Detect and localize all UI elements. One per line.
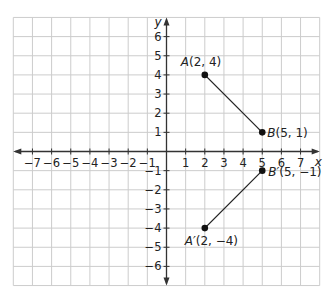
x-tick-label: 4 [239, 156, 246, 170]
y-tick-label: 6 [154, 30, 161, 44]
y-tick-label: 4 [154, 68, 161, 82]
x-tick-label: −3 [101, 156, 118, 170]
x-tick-label: −5 [62, 156, 79, 170]
x-tick-label: −6 [43, 156, 60, 170]
point-label: A′(2, −4) [184, 234, 238, 248]
segment-A'B' [205, 171, 262, 228]
point-A [202, 72, 209, 79]
point-A-prime [202, 225, 209, 232]
y-axis-label: y [154, 15, 163, 29]
y-tick-label: 1 [154, 125, 161, 139]
y-tick-label: 3 [154, 87, 161, 101]
y-tick-label: 5 [154, 49, 161, 63]
y-tick-label: −4 [145, 221, 162, 235]
x-tick-label: −7 [24, 156, 41, 170]
x-axis-left-arrow-icon [13, 149, 21, 155]
point-B-prime [259, 167, 266, 174]
x-tick-label: 1 [182, 156, 189, 170]
y-tick-label: 2 [154, 106, 161, 120]
y-tick-label: −1 [145, 164, 162, 178]
x-tick-label: 2 [201, 156, 208, 170]
coordinate-plane: xy −7−6−5−4−3−2−11234567654321−1−2−3−4−5… [0, 0, 329, 303]
point-label: A(2, 4) [180, 55, 221, 69]
y-tick-label: −3 [145, 202, 162, 216]
segment-AB [205, 75, 262, 132]
point-B [259, 129, 266, 136]
x-tick-label: −2 [120, 156, 137, 170]
y-axis-up-arrow-icon [164, 17, 170, 25]
x-tick-label: −4 [81, 156, 98, 170]
y-tick-label: −6 [145, 259, 162, 273]
y-axis-down-arrow-icon [164, 278, 170, 286]
point-label: B(5, 1) [267, 126, 308, 140]
point-label: B′(5, −1) [268, 165, 321, 179]
x-tick-label: 3 [220, 156, 227, 170]
y-tick-label: −2 [145, 183, 162, 197]
y-tick-label: −5 [145, 240, 162, 254]
